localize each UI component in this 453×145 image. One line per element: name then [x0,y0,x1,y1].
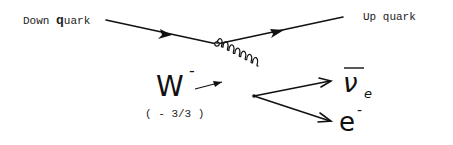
feynman-diagram: Down quark Up quark W - ( - 3/3 ) ν e e … [0,0,453,145]
antineutrino-line [254,81,330,96]
w-pointer-arrow-icon [213,81,222,87]
electron-label: e [339,107,355,137]
w-boson-spring [215,28,261,79]
w-charge-superscript: - [189,61,195,80]
antineutrino-label: ν [343,68,358,98]
down-quark-label: Down quark [23,13,91,28]
up-quark-label: Up quark [363,11,416,23]
electron-line [254,96,330,121]
down-quark-arrow-icon [158,29,172,39]
w-boson-label: W [156,70,184,103]
w-charge-note: ( - 3/3 ) [145,108,204,120]
electron-superscript: - [357,102,362,118]
antineutrino-subscript: e [364,86,372,101]
up-quark-arrow-icon [270,29,284,38]
